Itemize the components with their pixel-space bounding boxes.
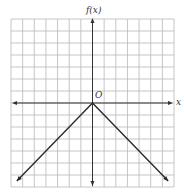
origin-label: O — [95, 91, 102, 100]
x-axis-label: x — [176, 98, 181, 107]
y-axis-label: f(x) — [86, 6, 101, 15]
coordinate-plane — [0, 0, 184, 196]
